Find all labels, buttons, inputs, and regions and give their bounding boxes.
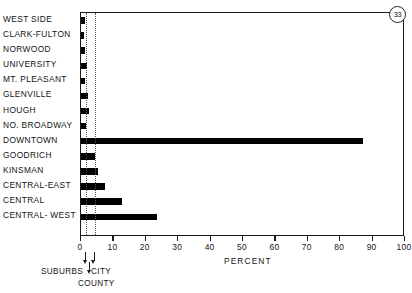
x-tick-label: 90	[367, 242, 377, 252]
figure-number-badge: 33	[389, 6, 406, 23]
x-tick	[339, 236, 340, 241]
arrow-head	[83, 260, 87, 264]
bar-row	[81, 164, 405, 179]
bar	[81, 183, 105, 189]
x-tick-label: 60	[269, 242, 279, 252]
bar-row	[81, 58, 405, 73]
bar-row	[81, 119, 405, 134]
bar-row	[81, 149, 405, 164]
bar	[81, 47, 85, 53]
category-label: NO. BROADWAY	[3, 118, 77, 133]
category-label: GLENVILLE	[3, 87, 77, 102]
plot-area	[80, 12, 404, 236]
bar-row	[81, 134, 405, 149]
x-tick-label: 50	[237, 242, 247, 252]
bar-rows	[81, 13, 403, 235]
chart-page: WEST SIDECLARK-FULTONNORWOODUNIVERSITYMT…	[0, 0, 412, 293]
plot-inner	[81, 13, 403, 235]
city-label: CITY	[91, 267, 111, 276]
category-label: HOUGH	[3, 103, 77, 118]
category-label: CENTRAL- WEST	[3, 208, 77, 223]
category-label: KINSMAN	[3, 163, 77, 178]
x-tick	[274, 236, 275, 241]
x-tick	[145, 236, 146, 241]
category-label: CLARK-FULTON	[3, 27, 77, 42]
category-label: MT. PLEASANT	[3, 72, 77, 87]
x-tick-label: 30	[172, 242, 182, 252]
x-tick	[80, 236, 81, 241]
suburbs-label: SUBURBS	[41, 267, 83, 276]
bar-row	[81, 194, 405, 209]
bar-row	[81, 104, 405, 119]
county-label: COUNTY	[78, 279, 115, 288]
bar-row	[81, 28, 405, 43]
bar	[81, 138, 363, 144]
x-tick	[210, 236, 211, 241]
category-label: NORWOOD	[3, 42, 77, 57]
x-tick-label: 0	[78, 242, 83, 252]
x-tick-label: 100	[397, 242, 412, 252]
x-tick	[307, 236, 308, 241]
x-tick-label: 20	[140, 242, 150, 252]
bar-row	[81, 89, 405, 104]
bar	[81, 17, 85, 23]
category-label: CENTRAL	[3, 193, 77, 208]
category-label: GOODRICH	[3, 148, 77, 163]
bar	[81, 32, 84, 38]
x-tick-label: 10	[107, 242, 117, 252]
x-tick-label: 40	[205, 242, 215, 252]
category-label-column: WEST SIDECLARK-FULTONNORWOODUNIVERSITYMT…	[3, 12, 77, 223]
bar	[81, 153, 95, 159]
x-tick-label: 80	[334, 242, 344, 252]
category-label: UNIVERSITY	[3, 57, 77, 72]
county-line	[86, 13, 87, 235]
bar-row	[81, 209, 405, 224]
x-axis-title: PERCENT	[224, 256, 272, 266]
bar-row	[81, 13, 405, 28]
x-tick	[112, 236, 113, 241]
category-label: DOWNTOWN	[3, 133, 77, 148]
x-tick	[177, 236, 178, 241]
bar-row	[81, 43, 405, 58]
bar-row	[81, 179, 405, 194]
x-tick	[242, 236, 243, 241]
x-tick	[372, 236, 373, 241]
x-tick	[404, 236, 405, 241]
city-line	[95, 13, 96, 235]
category-label: WEST SIDE	[3, 12, 77, 27]
bar	[81, 123, 86, 129]
bar	[81, 214, 157, 220]
arrow-head	[91, 260, 95, 264]
bar	[81, 78, 85, 84]
bar-row	[81, 73, 405, 88]
category-label: CENTRAL-EAST	[3, 178, 77, 193]
x-axis: 0102030405060708090100	[80, 236, 404, 237]
x-tick-label: 70	[302, 242, 312, 252]
